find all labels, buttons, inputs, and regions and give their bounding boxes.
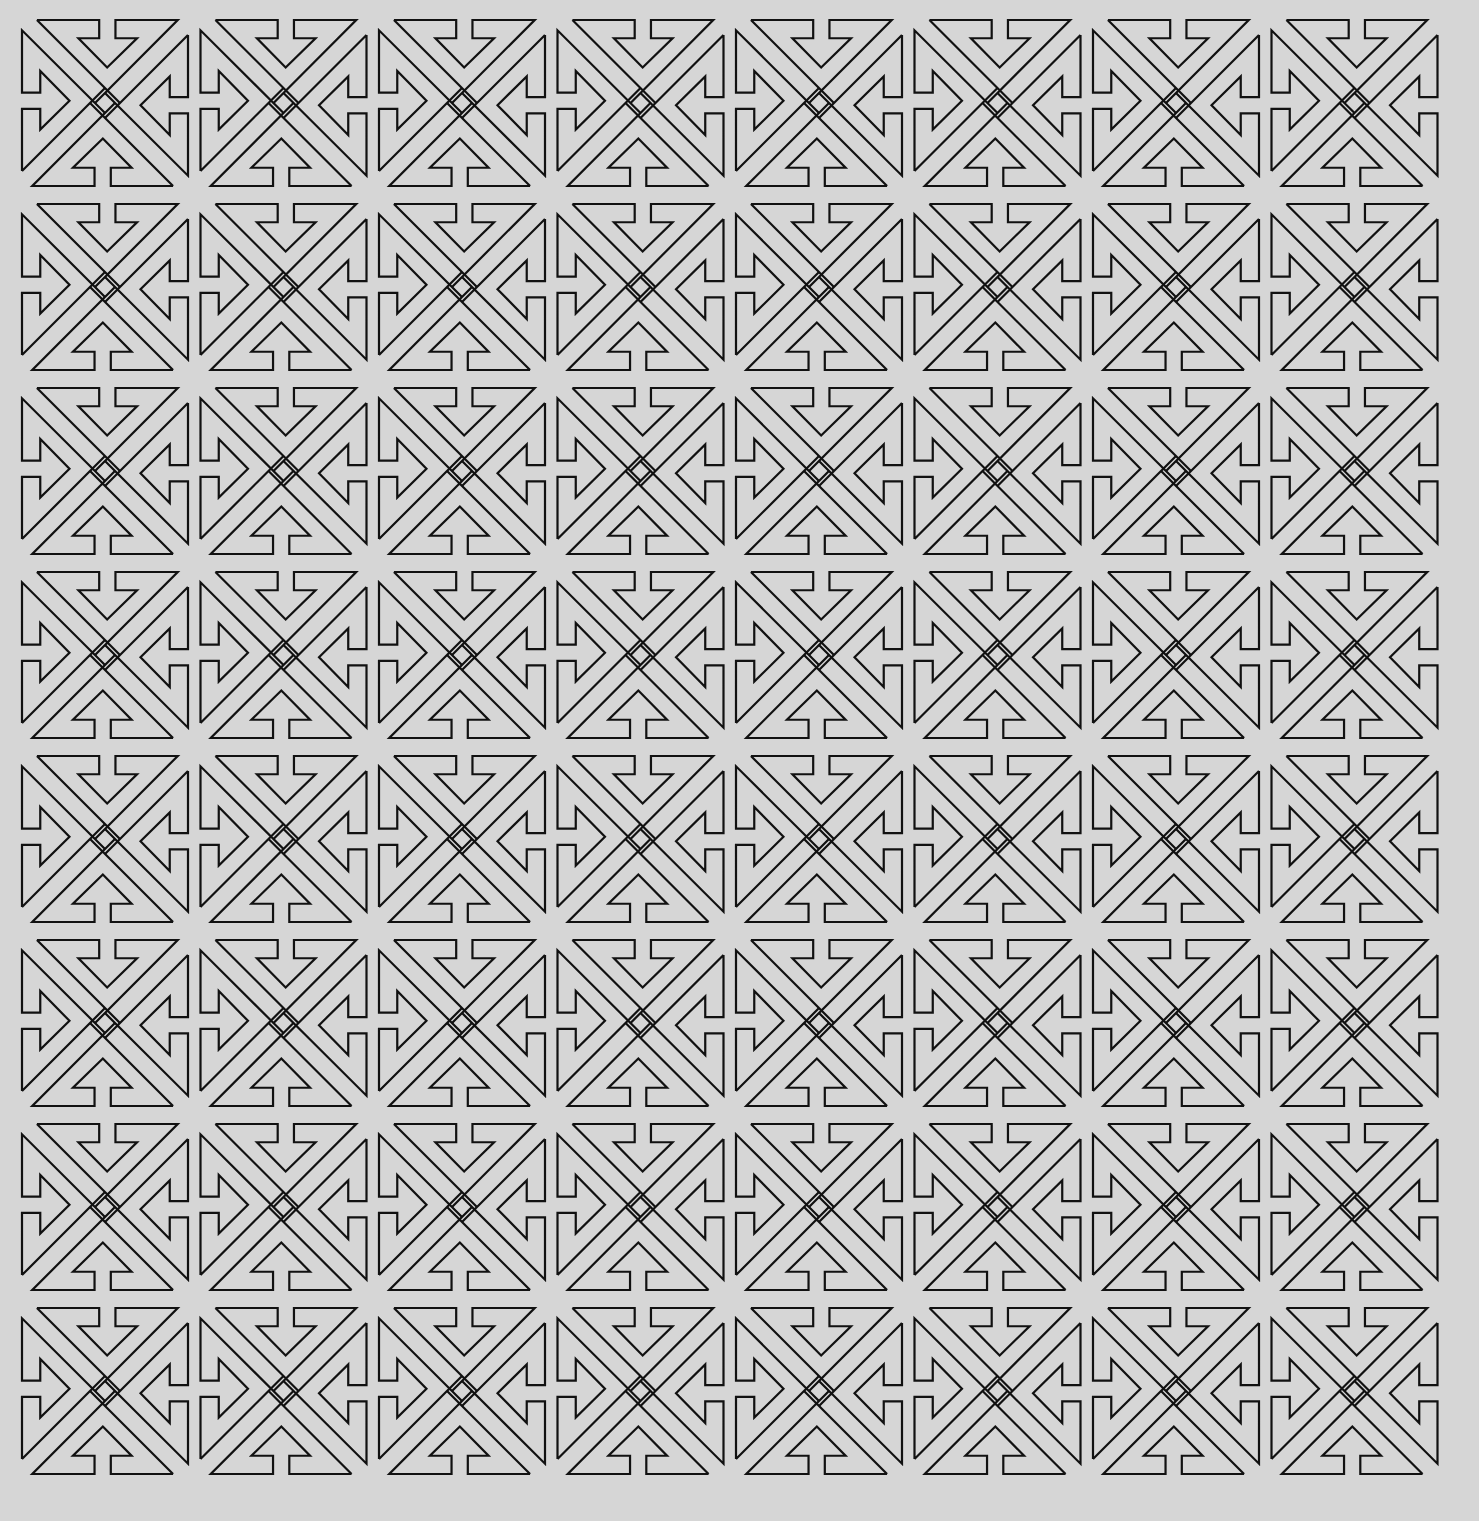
pattern-tile — [558, 204, 724, 370]
pattern-tile — [22, 1124, 188, 1290]
pattern-tile — [736, 940, 902, 1106]
pattern-tile — [1093, 204, 1259, 370]
pattern-tile — [201, 756, 367, 922]
pattern-tile — [1093, 572, 1259, 738]
pattern-tile — [915, 940, 1081, 1106]
pattern-tile — [379, 1124, 545, 1290]
pattern-tile — [558, 20, 724, 186]
pattern-tile — [1272, 572, 1438, 738]
pattern-tile — [736, 1308, 902, 1474]
pattern-tile — [915, 756, 1081, 922]
pattern-tile — [1093, 1124, 1259, 1290]
pattern-tile — [736, 20, 902, 186]
pattern-tile — [736, 756, 902, 922]
tile-grid — [22, 20, 1438, 1474]
pattern-tile — [1272, 1308, 1438, 1474]
pattern-tile — [201, 1124, 367, 1290]
pattern-tile — [1272, 388, 1438, 554]
pattern-tile — [201, 1308, 367, 1474]
pattern-tile — [915, 20, 1081, 186]
pattern-tile — [22, 940, 188, 1106]
pattern-tile — [379, 20, 545, 186]
pattern-tile — [379, 572, 545, 738]
pattern-tile — [915, 1308, 1081, 1474]
pattern-tile — [1272, 20, 1438, 186]
pattern-tile — [22, 572, 188, 738]
pattern-tile — [379, 940, 545, 1106]
pattern-tile — [1272, 756, 1438, 922]
pattern-tile — [1093, 756, 1259, 922]
pattern-tile — [22, 756, 188, 922]
pattern-tile — [558, 1308, 724, 1474]
pattern-tile — [915, 204, 1081, 370]
pattern-tile — [379, 1308, 545, 1474]
pattern-tile — [558, 388, 724, 554]
pattern-tile — [1272, 940, 1438, 1106]
pattern-tile — [379, 388, 545, 554]
pattern-tile — [558, 1124, 724, 1290]
pattern-tile — [379, 204, 545, 370]
pattern-tile — [22, 20, 188, 186]
pattern-tile — [201, 940, 367, 1106]
pattern-tile — [1093, 20, 1259, 186]
pattern-tile — [1093, 388, 1259, 554]
pattern-tile — [1093, 940, 1259, 1106]
pattern-tile — [736, 572, 902, 738]
pattern-tile — [22, 1308, 188, 1474]
pattern-tile — [558, 940, 724, 1106]
pattern-tile — [558, 572, 724, 738]
pattern-tile — [1272, 204, 1438, 370]
pattern-tile — [22, 204, 188, 370]
pattern-canvas — [0, 0, 1479, 1521]
pattern-tile — [22, 388, 188, 554]
pattern-tile — [558, 756, 724, 922]
pattern-tile — [201, 20, 367, 186]
pattern-tile — [1272, 1124, 1438, 1290]
pattern-tile — [736, 388, 902, 554]
pattern-tile — [915, 572, 1081, 738]
pattern-tile — [201, 572, 367, 738]
pattern-tile — [1093, 1308, 1259, 1474]
pattern-tile — [379, 756, 545, 922]
pattern-tile — [915, 388, 1081, 554]
pattern-tile — [736, 1124, 902, 1290]
pattern-tile — [915, 1124, 1081, 1290]
pattern-tile — [201, 388, 367, 554]
pattern-tile — [201, 204, 367, 370]
pattern-tile — [736, 204, 902, 370]
